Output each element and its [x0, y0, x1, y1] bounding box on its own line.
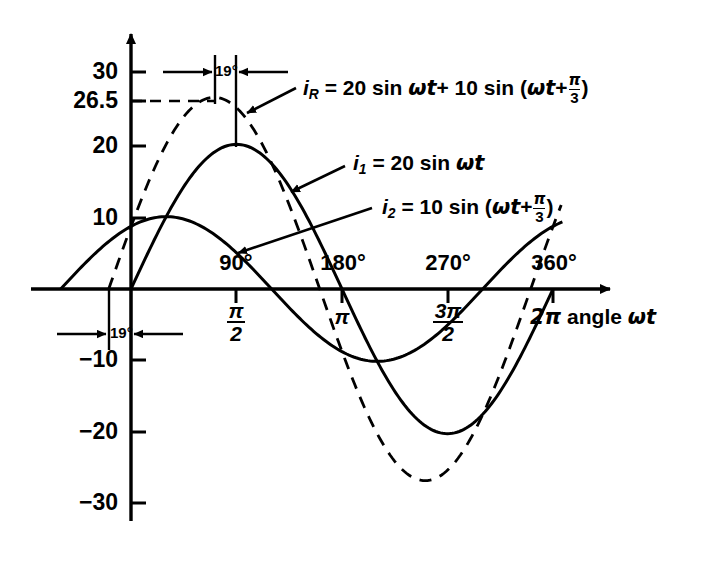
y-tick-label-10: 10 — [40, 206, 118, 229]
equation-i2: i2 = 10 sin (ωt+π3) — [382, 192, 553, 225]
y-tick-label-26-5: 26.5 — [24, 89, 118, 112]
x-axis-title: 2π angle ωt — [530, 306, 656, 328]
fraction-3pi-over-2: 3π 2 — [433, 300, 464, 345]
phase-label-top: 19° — [215, 63, 238, 78]
fraction-numerator: π — [533, 192, 545, 209]
x-axis-title-omega-t: ωt — [628, 305, 656, 329]
fraction-denominator: 2 — [433, 323, 464, 344]
y-tick-label-neg30: −30 — [24, 491, 118, 514]
fraction-denominator: 3 — [533, 209, 545, 225]
equation-ir-plus: + 10 sin ( — [436, 76, 526, 99]
equation-ir-close: ) — [581, 76, 588, 99]
waveform-figure: 30 26.5 20 10 −10 −20 −30 90° 180° 270° … — [0, 0, 701, 564]
equation-ir-omega-t: ωt — [408, 76, 436, 100]
y-tick-label-neg10: −10 — [24, 348, 118, 371]
x-tick-label-180: 180° — [300, 252, 386, 274]
fraction-numerator: π — [569, 73, 581, 90]
x-tick-label-270: 270° — [405, 252, 491, 274]
equation-i2-subscript: 2 — [388, 205, 396, 221]
equation-i1-equals: = 20 sin — [372, 151, 450, 174]
phase-label-bottom: 19° — [110, 325, 133, 340]
y-tick-label-30: 30 — [40, 60, 118, 83]
equation-i2-plus: + — [520, 195, 532, 218]
equation-i2-close: ) — [546, 195, 553, 218]
equation-i1: i1 = 20 sin ωt — [353, 152, 484, 177]
x-tick-label-360: 360° — [511, 252, 597, 274]
x-tick-rad-90: π 2 — [206, 300, 266, 345]
fraction-pi-over-2: π 2 — [227, 300, 246, 345]
equation-i1-subscript: 1 — [359, 161, 367, 177]
leader-ir — [247, 88, 296, 113]
x-axis-title-word: angle — [567, 305, 622, 328]
fraction-numerator: 3π — [433, 300, 464, 323]
equation-i1-omega-t: ωt — [456, 151, 484, 175]
x-tick-label-90: 90° — [196, 252, 276, 274]
x-axis-title-2pi: 2π — [530, 305, 561, 329]
equation-i2-omega-t: ωt — [492, 195, 520, 219]
equation-ir-plus-2: + — [555, 76, 567, 99]
equation-i2-fraction: π3 — [533, 192, 545, 225]
equation-ir-subscript: R — [309, 86, 319, 102]
y-tick-label-neg20: −20 — [24, 420, 118, 443]
fraction-denominator: 3 — [569, 90, 581, 106]
leader-i1 — [291, 166, 345, 192]
equation-ir-omega-t-2: ωt — [527, 76, 555, 100]
equation-ir-equals: = 20 sin — [325, 76, 403, 99]
y-tick-label-20: 20 — [40, 134, 118, 157]
equation-ir: iR = 20 sin ωt+ 10 sin (ωt+π3) — [303, 73, 588, 106]
x-tick-rad-270: 3π 2 — [418, 300, 478, 345]
fraction-denominator: 2 — [227, 323, 246, 344]
x-tick-rad-180: π — [312, 306, 372, 327]
equation-i2-equals: = 10 sin ( — [401, 195, 491, 218]
fraction-numerator: π — [227, 300, 246, 323]
equation-ir-fraction: π3 — [569, 73, 581, 106]
